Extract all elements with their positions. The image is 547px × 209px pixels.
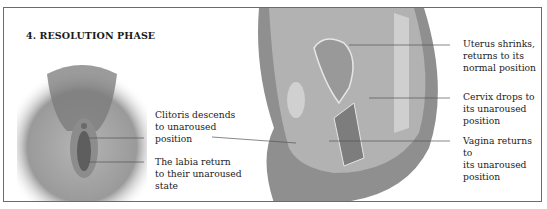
label-labia: The labia return to their unaroused stat… xyxy=(155,156,242,192)
cross-section-illustration xyxy=(244,8,444,202)
figure-title: 4. RESOLUTION PHASE xyxy=(26,30,155,41)
label-vagina: Vagina returns to its unaroused position xyxy=(463,135,541,183)
figure-frame: 4. RESOLUTION PHASE xyxy=(3,7,542,202)
label-cervix: Cervix drops to its unaroused position xyxy=(463,91,535,127)
external-view-illustration xyxy=(12,56,152,202)
label-clitoris: Clitoris descends to unaroused position xyxy=(155,109,235,145)
label-uterus: Uterus shrinks, returns to its normal po… xyxy=(463,38,536,74)
